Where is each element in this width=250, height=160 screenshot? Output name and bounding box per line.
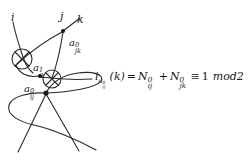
node-label-j: j xyxy=(60,11,63,22)
equation-term2-sub: jk xyxy=(180,82,187,89)
equation-term1-sub: ij xyxy=(148,82,153,89)
edge-label-a0jk-sub: jk xyxy=(75,48,81,55)
equation-congruent: ≡ xyxy=(189,70,202,83)
equation-modulus: mod2 xyxy=(213,70,244,83)
node-label-i: i xyxy=(11,12,15,23)
equation-term2-base: N xyxy=(170,70,180,83)
equation-equals: = xyxy=(125,70,138,83)
equation-lhs-sub-sub: ij xyxy=(103,85,106,90)
curve-right-lobe xyxy=(46,72,102,93)
equation-term1-base: N xyxy=(138,70,148,83)
strand-j-down xyxy=(52,32,63,78)
edge-label-a1ik-sub: ik xyxy=(39,73,45,80)
strand-down-left xyxy=(18,94,46,152)
edge-label-a0ij: a0ij xyxy=(24,84,30,94)
vertex-dot-j xyxy=(61,29,65,33)
equation-lhs-subscript: a0ij xyxy=(99,77,103,85)
equation-plus: + xyxy=(157,70,170,83)
curve-left-lobe xyxy=(9,93,96,150)
node-label-k: k xyxy=(77,14,84,25)
equation-lhs-arg: (k) xyxy=(110,70,125,83)
edge-label-a0ij-sub: ij xyxy=(30,94,34,101)
strand-down-right xyxy=(46,94,79,151)
equation-value: 1 xyxy=(202,70,209,83)
vertex-dot-ij xyxy=(43,90,48,95)
figure-container: i j k a0jk a1ik a0ij ia0ij(k)=N0ij+N0jk≡… xyxy=(0,0,250,160)
index-equation: ia0ij(k)=N0ij+N0jk≡1mod2 xyxy=(95,71,244,85)
edge-label-a0jk: a0jk xyxy=(69,38,75,48)
edge-label-a1ik: a1ik xyxy=(33,63,39,73)
strand-lower-horizontal xyxy=(40,77,92,79)
